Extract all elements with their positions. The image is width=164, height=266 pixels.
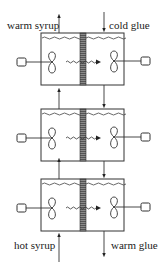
stage-3 bbox=[17, 179, 150, 231]
heat-exchanger-diagram: warm syrup cold glue hot syrup warm glue bbox=[0, 0, 164, 266]
label-cold-glue: cold glue bbox=[109, 19, 150, 31]
label-warm-glue: warm glue bbox=[111, 239, 158, 251]
label-hot-syrup: hot syrup bbox=[14, 239, 56, 251]
stage-2 bbox=[17, 109, 150, 161]
stage-1 bbox=[17, 33, 150, 85]
label-warm-syrup: warm syrup bbox=[7, 19, 60, 31]
